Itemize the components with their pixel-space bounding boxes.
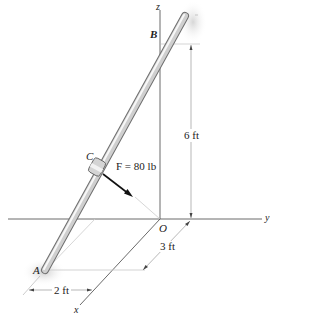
point-a-label: A [33, 265, 40, 276]
origin-label: O [159, 223, 167, 234]
guide-force [135, 197, 160, 219]
y-axis-label: y [265, 213, 269, 223]
force-label: F = 80 lb [116, 161, 156, 172]
dim-3ft-label: 3 ft [160, 241, 175, 252]
dim-2ft-label: 2 ft [52, 285, 71, 296]
x-axis [80, 219, 160, 305]
dim-6ft-label: 6 ft [184, 129, 199, 142]
point-c-label: C [86, 151, 93, 162]
x-axis-label: x [74, 305, 78, 315]
z-axis-label: z [156, 2, 160, 12]
point-b-label: B [150, 29, 157, 40]
force-arrow [103, 174, 129, 194]
